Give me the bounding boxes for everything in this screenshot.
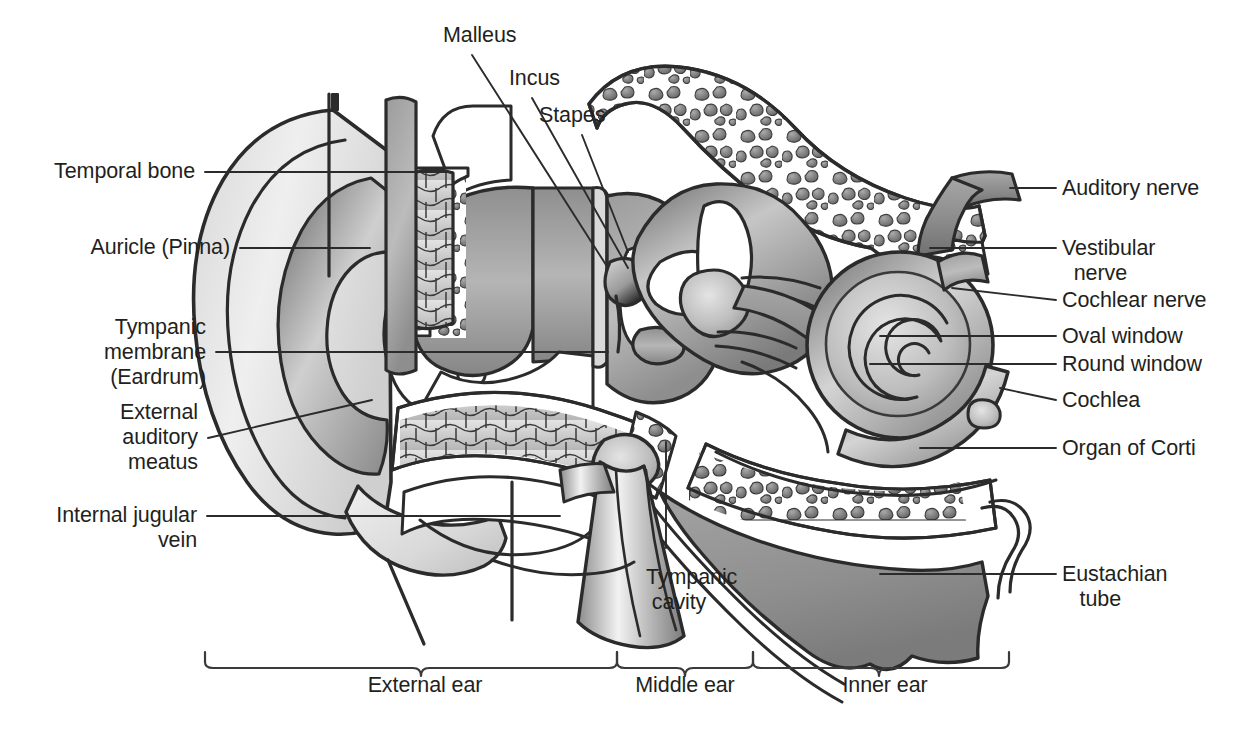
label-temporal-bone: Temporal bone <box>10 159 195 184</box>
region-label-middle-ear: Middle ear <box>570 673 800 698</box>
label-tympanic-cavity: Tympanic cavity <box>646 565 737 615</box>
label-auditory-nerve: Auditory nerve <box>1062 176 1199 201</box>
label-eustachian-tube: Eustachian tube <box>1062 562 1167 612</box>
label-incus: Incus <box>509 66 560 91</box>
label-external-auditory-meatus: External auditory meatus <box>10 400 198 475</box>
label-internal-jugular-vein: Internal jugular vein <box>10 503 197 553</box>
label-malleus: Malleus <box>443 23 516 48</box>
ear-diagram: Temporal bone Auricle (Pinna) Tympanic m… <box>0 0 1256 729</box>
region-label-external-ear: External ear <box>310 673 540 698</box>
label-organ-of-corti: Organ of Corti <box>1062 436 1196 461</box>
label-round-window: Round window <box>1062 352 1202 377</box>
label-stapes: Stapes <box>539 103 605 128</box>
label-oval-window: Oval window <box>1062 324 1183 349</box>
region-label-inner-ear: Inner ear <box>770 673 1000 698</box>
label-tympanic-membrane: Tympanic membrane (Eardrum) <box>10 315 206 390</box>
label-cochlear-nerve: Cochlear nerve <box>1062 288 1206 313</box>
label-cochlea: Cochlea <box>1062 388 1140 413</box>
label-auricle-pinna: Auricle (Pinna) <box>10 235 230 260</box>
label-vestibular-nerve: Vestibular nerve <box>1062 236 1155 286</box>
